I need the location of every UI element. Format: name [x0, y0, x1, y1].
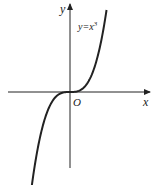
y-axis-label: y [59, 2, 66, 16]
cubic-curve [32, 10, 107, 185]
curve-label: y=x3 [77, 20, 98, 32]
x-axis-label: x [142, 95, 149, 109]
cubic-function-graph: y y=x3 O x [0, 0, 156, 185]
origin-label: O [73, 96, 81, 108]
